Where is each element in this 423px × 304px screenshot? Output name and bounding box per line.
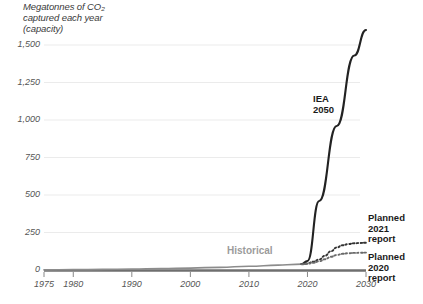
y-tick-label: 1,000: [0, 114, 40, 124]
series-group: [44, 30, 366, 270]
series-line: [302, 30, 366, 264]
x-tick-label: 1980: [53, 279, 93, 289]
planned-2021-label: Planned 2021 report: [368, 213, 405, 245]
gridlines-group: [44, 45, 360, 233]
series-line: [44, 264, 307, 270]
x-tick-marks-group: [44, 272, 366, 277]
x-tick-label: 2020: [287, 279, 327, 289]
chart-container: Megatonnes of CO₂captured each year(capa…: [0, 0, 423, 304]
x-tick-label: 2000: [170, 279, 210, 289]
x-tick-label: 2010: [229, 279, 269, 289]
y-tick-label: 500: [0, 189, 40, 199]
y-tick-label: 250: [0, 227, 40, 237]
y-tick-label: 1,250: [0, 77, 40, 87]
x-tick-label: 1990: [112, 279, 152, 289]
iea-2050-label: IEA 2050: [313, 94, 334, 115]
planned-2020-label: Planned 2020 report: [368, 252, 405, 284]
y-tick-label: 750: [0, 152, 40, 162]
historical-label: Historical: [227, 246, 273, 257]
chart-plot-area: [0, 0, 423, 304]
y-tick-label: 1,500: [0, 39, 40, 49]
y-tick-label: 0: [0, 264, 40, 274]
